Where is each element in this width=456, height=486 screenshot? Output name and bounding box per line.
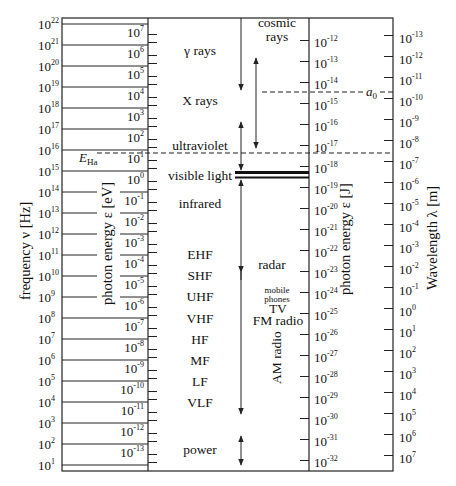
ev-tick-label: 107 (127, 24, 144, 40)
joule-tick-label: 10-27 (314, 349, 338, 365)
frequency-tick-label: 1015 (38, 163, 59, 179)
joule-tick-label: 10-29 (314, 391, 338, 407)
wavelength-tick-label: 105 (399, 408, 416, 424)
band-label: power (183, 442, 217, 457)
wavelength-tick-label: 10-2 (399, 261, 419, 277)
joule-axis-labels: 10-1210-1310-1410-1510-1610-1710-1810-19… (300, 34, 338, 470)
band-label: γ rays (183, 43, 216, 58)
wavelength-tick-label: 10-5 (399, 198, 419, 214)
frequency-tick-label: 1011 (38, 247, 59, 263)
band-label: UHF (186, 289, 213, 304)
joule-tick-label: 10-28 (314, 370, 338, 386)
ev-axis-title: photon energy ε [eV] (99, 182, 115, 305)
ev-tick-label: 104 (127, 87, 144, 103)
reference-markers: EHaa0 (78, 84, 393, 167)
ev-tick-label: 10-13 (120, 444, 144, 460)
ev-tick-label: 101 (127, 150, 144, 166)
source-labels: cosmicraysradarmobilephonesTVFM radioAM … (253, 15, 304, 384)
ev-tick-label: 10-3 (124, 234, 144, 250)
joule-tick-label: 10-17 (314, 139, 338, 155)
frequency-tick-label: 1018 (38, 100, 59, 116)
frequency-tick-label: 105 (38, 373, 55, 389)
ev-tick-label: 10-2 (124, 213, 144, 229)
frequency-tick-label: 1021 (38, 37, 59, 53)
band-label: infrared (179, 196, 222, 211)
ev-tick-label: 10-1 (124, 192, 144, 208)
wavelength-tick-label: 103 (399, 366, 416, 382)
ev-tick-label: 102 (127, 129, 144, 145)
hydrogen-ionization-label: EHa (78, 150, 97, 167)
band-label: VHF (186, 311, 213, 326)
frequency-tick-label: 1017 (38, 121, 59, 137)
joule-tick-label: 10-20 (314, 202, 338, 218)
frequency-tick-label: 102 (38, 436, 55, 452)
frequency-tick-label: 1012 (38, 226, 59, 242)
ev-tick-label: 105 (127, 66, 144, 82)
band-labels: γ raysX raysultravioletvisible lightinfr… (168, 43, 232, 457)
joule-tick-label: 10-26 (314, 328, 338, 344)
wavelength-tick-label: 10-6 (399, 177, 419, 193)
joule-tick-label: 10-31 (314, 433, 338, 449)
joule-tick-label: 10-16 (314, 118, 338, 134)
frequency-tick-label: 106 (38, 352, 55, 368)
wavelength-tick-label: 10-13 (399, 30, 423, 46)
frequency-tick-label: 1013 (38, 205, 59, 221)
frequency-tick-label: 109 (38, 289, 55, 305)
bohr-radius-label: a0 (366, 84, 378, 101)
wavelength-tick-label: 10-9 (399, 114, 419, 130)
frequency-tick-label: 107 (38, 331, 55, 347)
frequency-tick-label: 101 (38, 457, 55, 473)
radar-label: radar (258, 257, 286, 272)
frequency-tick-label: 108 (38, 310, 55, 326)
frequency-tick-label: 1022 (38, 16, 59, 32)
ev-axis-labels: 10710610510410310210110010-110-210-310-4… (120, 24, 157, 463)
ev-tick-label: 10-8 (124, 339, 144, 355)
range-arrows (235, 18, 309, 465)
frequency-tick-label: 1010 (38, 268, 59, 284)
frequency-tick-label: 1020 (38, 58, 59, 74)
wavelength-tick-label: 10-4 (399, 219, 419, 235)
joule-axis-title: photon energy ε [J] (337, 183, 353, 295)
joule-tick-label: 10-30 (314, 412, 338, 428)
am-radio-label: AM radio (269, 331, 284, 384)
wavelength-tick-label: 10-3 (399, 240, 419, 256)
frequency-tick-label: 1016 (38, 142, 59, 158)
ev-tick-label: 106 (127, 45, 144, 61)
band-label: SHF (188, 268, 213, 283)
wavelength-axis-labels: 10-1310-1210-1110-1010-910-810-710-610-5… (384, 30, 423, 466)
joule-tick-label: 10-25 (314, 307, 338, 323)
joule-tick-label: 10-32 (314, 454, 338, 470)
wavelength-tick-label: 10-10 (399, 93, 423, 109)
em-spectrum-diagram: 1022102110201019101810171016101510141013… (0, 0, 456, 486)
wavelength-tick-label: 10-7 (399, 156, 419, 172)
wavelength-tick-label: 107 (399, 450, 416, 466)
wavelength-tick-label: 10-11 (399, 72, 422, 88)
joule-tick-label: 10-22 (314, 244, 338, 260)
joule-tick-label: 10-13 (314, 55, 338, 71)
joule-tick-label: 10-14 (314, 76, 338, 92)
joule-tick-label: 10-24 (314, 286, 338, 302)
fm-radio-label: FM radio (253, 313, 304, 328)
ev-tick-label: 10-12 (120, 423, 144, 439)
band-label: LF (192, 374, 208, 389)
wavelength-tick-label: 100 (399, 303, 416, 319)
wavelength-tick-label: 10-8 (399, 135, 419, 151)
cosmic-rays-label: rays (266, 29, 289, 44)
ev-tick-label: 10-9 (124, 360, 144, 376)
frequency-axis-title: frequency ν [Hz] (17, 202, 33, 300)
ev-tick-label: 10-4 (124, 255, 144, 271)
wavelength-tick-label: 101 (399, 324, 416, 340)
ev-tick-label: 10-5 (124, 276, 144, 292)
frequency-axis-labels: 1022102110201019101810171016101510141013… (38, 16, 59, 473)
band-label: EHF (187, 247, 213, 262)
ev-tick-label: 10-6 (124, 297, 144, 313)
band-label: VLF (187, 395, 213, 410)
band-label: HF (191, 332, 209, 347)
wavelength-tick-label: 102 (399, 345, 416, 361)
ev-tick-label: 103 (127, 108, 144, 124)
wavelength-tick-label: 104 (399, 387, 416, 403)
band-label: ultraviolet (172, 138, 228, 153)
cosmic-rays-label: cosmic (258, 15, 296, 30)
joule-tick-label: 10-18 (314, 160, 338, 176)
frequency-tick-label: 1019 (38, 79, 59, 95)
